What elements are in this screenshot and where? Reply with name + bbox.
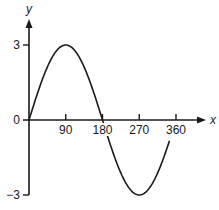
x-tick-label: 180	[92, 123, 112, 137]
sine-chart: 9018027036030−3yx	[0, 0, 219, 210]
x-tick-label: 270	[129, 123, 149, 137]
x-axis-arrow-icon	[197, 117, 206, 124]
tick-labels: 9018027036030−3yx	[6, 2, 217, 202]
x-tick-label: 360	[166, 123, 186, 137]
y-tick-label: 0	[13, 113, 20, 127]
x-tick-label: 90	[59, 123, 73, 137]
y-axis-label: y	[25, 2, 33, 16]
y-tick-label: 3	[13, 38, 20, 52]
y-axis-arrow-icon	[26, 19, 33, 28]
axes	[23, 19, 206, 195]
x-axis-label: x	[209, 113, 217, 127]
y-tick-label: −3	[6, 188, 20, 202]
